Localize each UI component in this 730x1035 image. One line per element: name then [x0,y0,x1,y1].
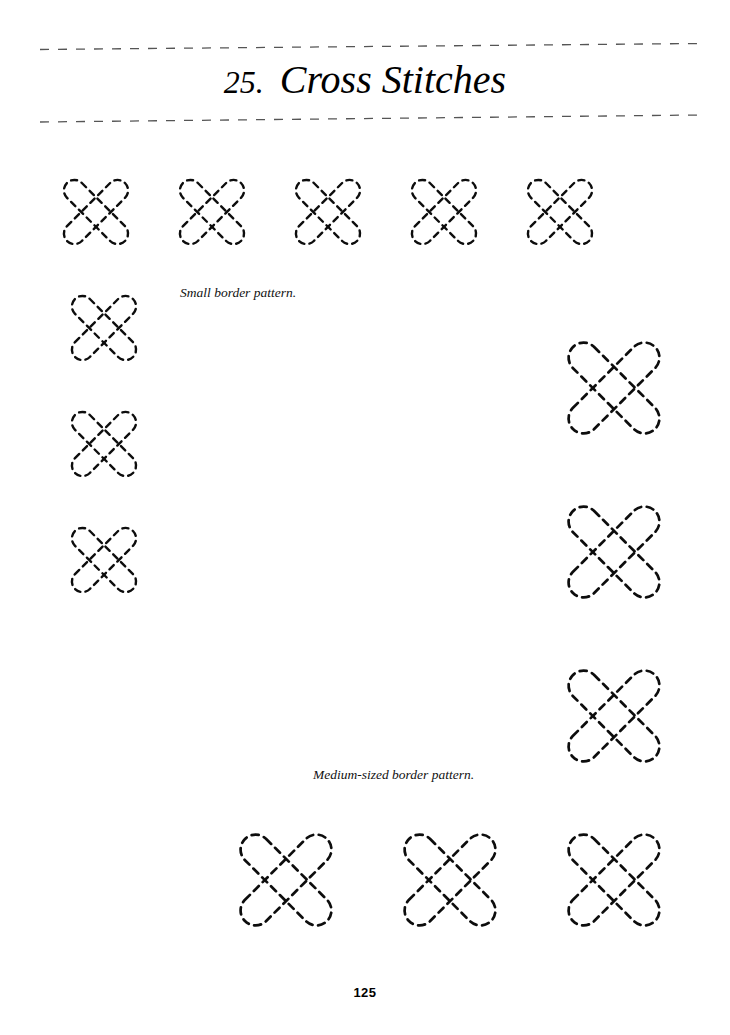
cross-bottom-1 [234,828,337,931]
band-top-row-small [60,176,597,249]
cross-bottom-2 [398,828,501,931]
cross-right-3 [562,664,665,767]
page-number: 125 [0,985,730,1000]
cross-top-3 [292,176,365,249]
book-page: 25.Cross Stitches [0,0,730,1035]
cross-top-2 [176,176,249,249]
cross-left-3 [68,524,141,597]
cross-bottom-3 [562,828,665,931]
cross-top-1 [60,176,133,249]
cross-left-1 [68,292,141,365]
cross-right-1 [562,336,665,439]
caption-small-border-pattern: Small border pattern. [180,285,296,301]
cross-top-5 [524,176,597,249]
band-right-column-medium [562,336,665,767]
cross-left-2 [68,408,141,481]
cross-top-4 [408,176,481,249]
band-bottom-row-medium [234,828,665,931]
caption-medium-border-pattern: Medium-sized border pattern. [313,767,474,783]
band-left-column-small [68,292,141,597]
cross-stitch-artwork [0,0,730,1035]
cross-right-2 [562,500,665,603]
